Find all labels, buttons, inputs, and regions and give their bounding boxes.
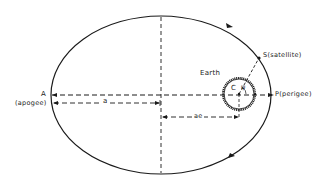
satellite-dot xyxy=(257,56,260,59)
semi-major-label: a xyxy=(102,98,109,105)
orbit-arrow-top xyxy=(226,23,233,28)
center-label: C xyxy=(231,85,236,92)
apogee-arrow xyxy=(52,93,57,97)
apogee-text-label: (apogee) xyxy=(15,100,47,107)
focal-distance-label: ae xyxy=(193,113,204,120)
focal-arrow-right xyxy=(234,115,239,119)
perigee-label: P(perigee) xyxy=(275,91,312,98)
semi-major-arrow-left xyxy=(53,101,58,105)
semi-major-arrow-right xyxy=(155,101,160,105)
apogee-point-label: A xyxy=(41,91,46,98)
satellite-label: S(satellite) xyxy=(263,52,302,59)
focal-arrow-left xyxy=(162,115,167,119)
angle-label: ψ xyxy=(241,84,246,91)
earth-label: Earth xyxy=(200,70,220,77)
